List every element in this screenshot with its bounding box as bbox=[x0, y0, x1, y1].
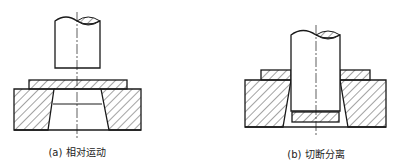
die-a bbox=[14, 89, 141, 130]
sheet-strip-a bbox=[29, 80, 127, 89]
punch-a bbox=[55, 17, 100, 68]
slug-b bbox=[292, 112, 339, 122]
sheet-strip-left-b bbox=[261, 70, 291, 80]
figure-a bbox=[14, 12, 141, 138]
punch-b bbox=[291, 31, 340, 112]
caption-b: (b) 切断分离 bbox=[287, 146, 344, 161]
punching-process-diagram bbox=[0, 0, 395, 167]
sheet-strip-right-b bbox=[340, 70, 370, 80]
caption-a: (a) 相对运动 bbox=[48, 144, 105, 159]
figure-b bbox=[245, 25, 386, 136]
